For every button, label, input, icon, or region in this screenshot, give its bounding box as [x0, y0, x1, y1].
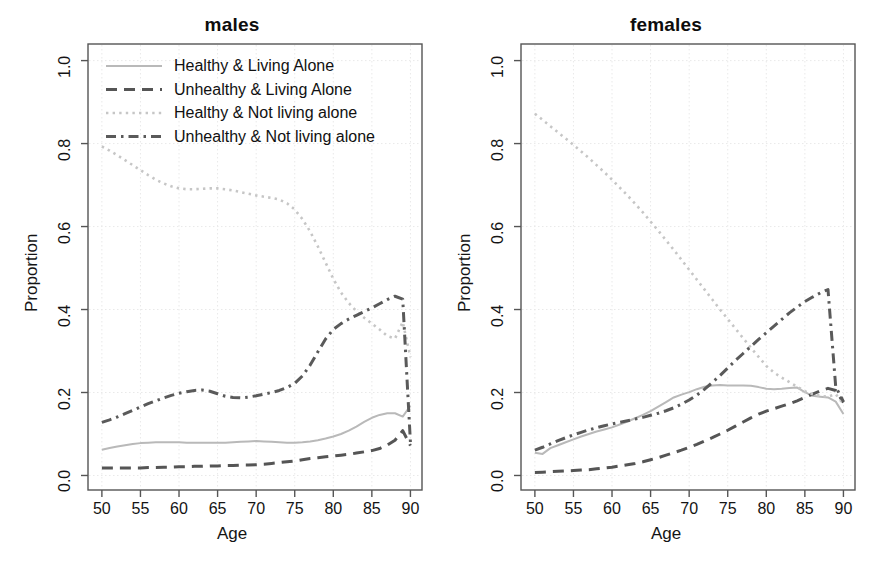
y-tick-label: 1.0: [489, 55, 507, 77]
y-tick-label: 0.6: [56, 221, 74, 243]
x-tick-label: 50: [82, 500, 122, 518]
x-tick-label: 70: [236, 500, 276, 518]
x-tick-label: 65: [631, 500, 671, 518]
y-tick-label: 0.4: [489, 304, 507, 326]
y-tick-label: 0.4: [56, 304, 74, 326]
y-tick-label: 0.2: [56, 387, 74, 409]
series-line-healthy-living-alone: [102, 406, 411, 450]
x-tick-label: 85: [785, 500, 825, 518]
x-tick-label: 80: [313, 500, 353, 518]
x-tick-label: 75: [708, 500, 748, 518]
legend-label: Unhealthy & Living Alone: [174, 81, 352, 99]
legend-label: Healthy & Living Alone: [174, 57, 334, 75]
x-tick-label: 65: [198, 500, 238, 518]
x-tick-label: 80: [746, 500, 786, 518]
y-tick-label: 0.0: [56, 470, 74, 492]
series-line-healthy-living-alone: [535, 385, 844, 454]
figure-canvas: males Age Proportion 0.00.20.40.60.81.05…: [0, 0, 892, 567]
y-tick-label: 0.8: [56, 138, 74, 160]
x-tick-label: 60: [159, 500, 199, 518]
chart-panel-females: females Age Proportion 0.00.20.40.60.81.…: [446, 0, 892, 567]
plot-area-females: [446, 0, 892, 567]
y-tick-label: 1.0: [56, 55, 74, 77]
x-tick-label: 55: [120, 500, 160, 518]
x-tick-label: 50: [515, 500, 555, 518]
y-tick-label: 0.2: [489, 387, 507, 409]
x-axis-title-males: Age: [0, 524, 446, 544]
y-tick-label: 0.0: [489, 470, 507, 492]
y-axis-title-males: Proportion: [22, 234, 42, 312]
axis-ticks: [81, 61, 410, 497]
x-tick-label: 90: [390, 500, 430, 518]
grid-lines: [522, 45, 854, 489]
x-tick-label: 60: [592, 500, 632, 518]
y-axis-title-females: Proportion: [455, 234, 475, 312]
legend: [106, 66, 162, 137]
y-tick-label: 0.8: [489, 138, 507, 160]
x-tick-label: 55: [553, 500, 593, 518]
y-tick-label: 0.6: [489, 221, 507, 243]
x-tick-label: 90: [823, 500, 863, 518]
x-axis-title-females: Age: [446, 524, 892, 544]
legend-label: Unhealthy & Not living alone: [174, 128, 375, 146]
x-tick-label: 75: [275, 500, 315, 518]
plot-frame: [521, 44, 855, 490]
legend-label: Healthy & Not living alone: [174, 104, 357, 122]
x-tick-label: 70: [669, 500, 709, 518]
axis-ticks: [514, 61, 843, 497]
x-tick-label: 85: [352, 500, 392, 518]
chart-panel-males: males Age Proportion 0.00.20.40.60.81.05…: [0, 0, 446, 567]
